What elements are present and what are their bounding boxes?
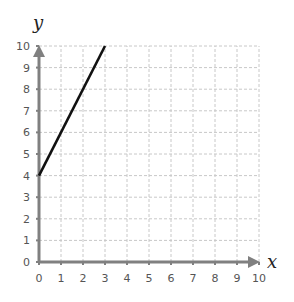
y-tick-label: 10	[16, 40, 30, 53]
y-tick-label: 4	[23, 170, 30, 183]
x-tick-label: 9	[234, 272, 241, 285]
x-tick-label: 2	[80, 272, 87, 285]
x-tick-label: 5	[146, 272, 153, 285]
y-tick-label: 0	[23, 256, 30, 269]
grid	[39, 46, 259, 262]
x-tick-label: 8	[212, 272, 219, 285]
x-tick-label: 1	[58, 272, 65, 285]
y-tick-label: 5	[23, 148, 30, 161]
x-tick-label: 4	[124, 272, 131, 285]
y-tick-label: 9	[23, 62, 30, 75]
x-tick-label: 7	[190, 272, 197, 285]
x-tick-label: 3	[102, 272, 109, 285]
y-tick-label: 7	[23, 105, 30, 118]
y-tick-label: 6	[23, 126, 30, 139]
y-tick-label: 2	[23, 213, 30, 226]
x-axis-label: x	[267, 251, 277, 272]
y-axis-label: y	[32, 12, 44, 33]
x-tick-label: 6	[168, 272, 175, 285]
ticks: 012345678910012345678910	[16, 40, 266, 285]
y-tick-label: 8	[23, 83, 30, 96]
x-tick-label: 0	[36, 272, 43, 285]
y-tick-label: 3	[23, 191, 30, 204]
axes	[33, 45, 260, 268]
chart: 012345678910012345678910 x y	[0, 0, 294, 302]
x-tick-label: 10	[252, 272, 266, 285]
y-tick-label: 1	[23, 234, 30, 247]
